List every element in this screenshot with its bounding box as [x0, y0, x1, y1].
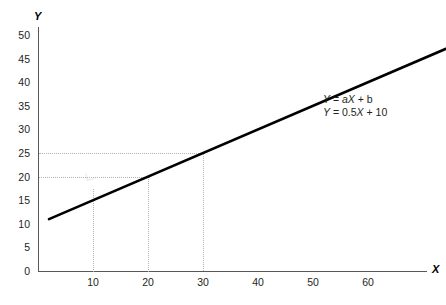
equation-line-general: Y = aX + b	[323, 93, 387, 106]
equation-var-x2: X	[357, 106, 364, 118]
equation-var-y1: Y	[323, 93, 330, 105]
equation-eq1: =	[330, 93, 342, 105]
equation-var-y2: Y	[323, 106, 330, 118]
plot-area	[0, 0, 446, 305]
data-line-series	[49, 44, 446, 219]
equation-suffix1: + b	[355, 93, 373, 105]
equation-var-x1: X	[348, 93, 355, 105]
equation-annotation: Y = aX + b Y = 0.5X + 10	[323, 93, 387, 119]
equation-suffix2: + 10	[364, 106, 388, 118]
chart-container: Y X 50 45 40 35 30 25 20 15 10 5 0 10 20…	[0, 0, 446, 305]
equation-eq2: = 0.5	[330, 106, 357, 118]
equation-line-specific: Y = 0.5X + 10	[323, 106, 387, 119]
